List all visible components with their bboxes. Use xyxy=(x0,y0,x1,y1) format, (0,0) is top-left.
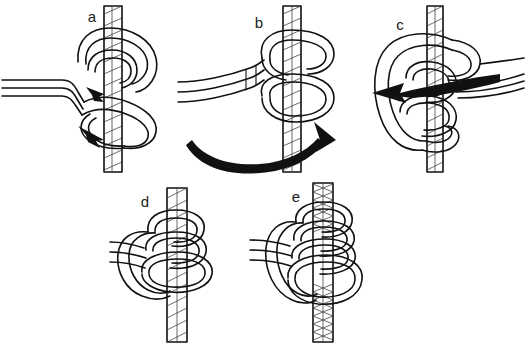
knot-diagram-canvas: a xyxy=(0,0,525,349)
panel-label-e: e xyxy=(292,188,300,205)
panel-label-d: d xyxy=(141,193,149,210)
panel-label-c: c xyxy=(396,16,404,33)
panel-label-a: a xyxy=(88,8,97,25)
panel-label-b: b xyxy=(255,14,263,31)
knot-diagram-figure: a xyxy=(0,0,525,349)
